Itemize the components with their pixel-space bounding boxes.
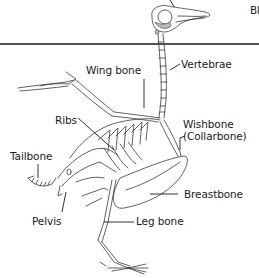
skull bbox=[152, 5, 210, 34]
label-pelvis: Pelvis bbox=[32, 215, 61, 227]
label-wishbone: Wishbone bbox=[183, 118, 234, 130]
pelvis-leader bbox=[62, 192, 66, 212]
ribcage bbox=[70, 119, 160, 170]
label-tailbone: Tailbone bbox=[10, 150, 52, 162]
label-leg-bone: Leg bone bbox=[136, 215, 184, 227]
wishbone-bone bbox=[164, 120, 182, 160]
label-wing-bone: Wing bone bbox=[86, 64, 141, 76]
breastbone-keel bbox=[113, 156, 187, 208]
tailbone-bone bbox=[28, 176, 56, 186]
neck-vertebrae bbox=[158, 34, 167, 118]
label-collarbone: (Collarbone) bbox=[183, 130, 247, 142]
ribs-leader bbox=[78, 118, 114, 150]
label-ribs: Ribs bbox=[55, 114, 77, 126]
label-vertebrae: Vertebrae bbox=[181, 58, 232, 70]
header-label-partial: Bl bbox=[250, 4, 259, 16]
bird-skeleton-diagram: Bl Wing bone Vertebrae Ribs Wishbone (Co… bbox=[0, 0, 259, 278]
vertebrae-leader bbox=[170, 64, 180, 70]
wing-bones bbox=[18, 72, 160, 122]
label-breastbone: Breastbone bbox=[184, 188, 243, 200]
